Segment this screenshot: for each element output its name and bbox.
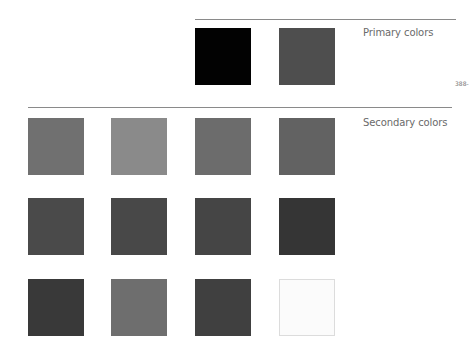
secondary-swatch-9 [28,279,84,336]
secondary-swatch-4 [279,118,335,175]
primary-colors-label: Primary colors [363,27,433,38]
secondary-swatch-11 [195,279,251,336]
secondary-swatch-5 [28,198,84,255]
secondary-swatch-1 [28,118,84,175]
secondary-swatch-8 [279,198,335,255]
secondary-divider [28,107,452,108]
secondary-swatch-7 [195,198,251,255]
secondary-swatch-2 [111,118,167,175]
secondary-swatch-10 [111,279,167,336]
secondary-colors-label: Secondary colors [363,117,447,128]
primary-swatch-2 [279,28,335,85]
secondary-swatch-6 [111,198,167,255]
secondary-swatch-3 [195,118,251,175]
primary-divider [195,19,456,20]
page-number: 388- [455,80,469,87]
secondary-swatch-12 [279,279,335,336]
primary-swatch-1 [195,28,251,85]
